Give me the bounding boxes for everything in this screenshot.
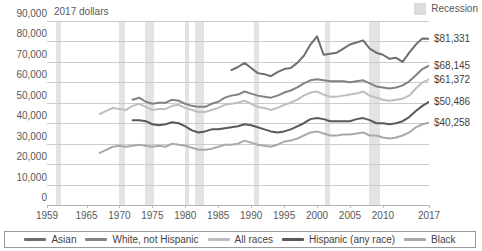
series-end-value-label: $81,331 bbox=[434, 34, 470, 44]
x-tick-mark bbox=[251, 205, 252, 208]
y-tick-label: 40,000 bbox=[0, 111, 47, 121]
x-tick-mark bbox=[383, 205, 384, 208]
x-tick-label: 1965 bbox=[75, 210, 97, 221]
legend-swatch-icon bbox=[85, 238, 107, 241]
x-tick-label: 1995 bbox=[273, 210, 295, 221]
y-tick-label: 10,000 bbox=[0, 173, 47, 183]
x-tick-mark bbox=[119, 205, 120, 208]
y-tick-label: 80,000 bbox=[0, 29, 47, 39]
recession-legend-label: Recession bbox=[431, 4, 478, 14]
y-tick-label: 20,000 bbox=[0, 152, 47, 162]
legend-swatch-icon bbox=[404, 238, 426, 241]
x-tick-mark bbox=[47, 205, 48, 208]
x-tick-mark bbox=[317, 205, 318, 208]
x-tick-mark bbox=[350, 205, 351, 208]
legend-item-hispanic-any-race[interactable]: Hispanic (any race) bbox=[282, 235, 395, 245]
legend-item-label: Asian bbox=[51, 235, 76, 245]
clipped-title-artifact bbox=[0, 0, 482, 4]
x-tick-label: 1985 bbox=[207, 210, 229, 221]
x-tick-mark bbox=[429, 205, 430, 208]
legend-item-label: Black bbox=[431, 235, 455, 245]
series-end-value-label: $50,486 bbox=[434, 97, 470, 107]
x-tick-mark bbox=[218, 205, 219, 208]
legend-item-label: Hispanic (any race) bbox=[309, 235, 395, 245]
legend-item-asian[interactable]: Asian bbox=[24, 235, 76, 245]
series-line bbox=[231, 36, 429, 76]
recession-legend: Recession bbox=[414, 3, 478, 15]
legend-item-black[interactable]: Black bbox=[404, 235, 455, 245]
series-lines-group bbox=[47, 21, 429, 205]
y-tick-label: 30,000 bbox=[0, 132, 47, 142]
legend-swatch-icon bbox=[24, 238, 46, 241]
legend-item-white-not-hispanic[interactable]: White, not Hispanic bbox=[85, 235, 198, 245]
x-tick-label: 2010 bbox=[372, 210, 394, 221]
x-tick-mark bbox=[87, 205, 88, 208]
x-tick-label: 1990 bbox=[240, 210, 262, 221]
y-tick-label: 70,000 bbox=[0, 50, 47, 60]
x-tick-label: 2005 bbox=[339, 210, 361, 221]
plot-area bbox=[47, 21, 429, 205]
legend-swatch-icon bbox=[282, 238, 304, 241]
x-tick-mark bbox=[284, 205, 285, 208]
chart-root: Recession 2017 dollars 90,00080,00070,00… bbox=[0, 0, 482, 251]
x-tick-mark bbox=[152, 205, 153, 208]
series-end-value-label: $68,145 bbox=[434, 61, 470, 71]
x-axis-line bbox=[47, 205, 429, 206]
legend-item-all-races[interactable]: All races bbox=[208, 235, 273, 245]
x-tick-label: 1970 bbox=[108, 210, 130, 221]
legend-item-label: White, not Hispanic bbox=[112, 235, 198, 245]
y-tick-label: 50,000 bbox=[0, 91, 47, 101]
series-end-value-label: $61,372 bbox=[434, 75, 470, 85]
x-tick-label: 2000 bbox=[306, 210, 328, 221]
legend-swatch-icon bbox=[208, 238, 230, 241]
x-tick-label: 1975 bbox=[141, 210, 163, 221]
x-tick-label: 1980 bbox=[174, 210, 196, 221]
series-end-value-label: $40,258 bbox=[434, 118, 470, 128]
x-tick-label: 1959 bbox=[36, 210, 58, 221]
x-tick-mark bbox=[185, 205, 186, 208]
legend-item-label: All races bbox=[235, 235, 273, 245]
y-axis-units-label: 2017 dollars bbox=[54, 7, 108, 17]
series-legend: AsianWhite, not HispanicAll racesHispani… bbox=[4, 231, 476, 248]
y-tick-label: 90,000 bbox=[0, 9, 47, 19]
series-line bbox=[100, 123, 429, 153]
y-tick-label: 60,000 bbox=[0, 70, 47, 80]
x-tick-label: 2017 bbox=[418, 210, 440, 221]
recession-swatch-icon bbox=[414, 3, 426, 15]
y-tick-label: 0 bbox=[0, 193, 47, 203]
